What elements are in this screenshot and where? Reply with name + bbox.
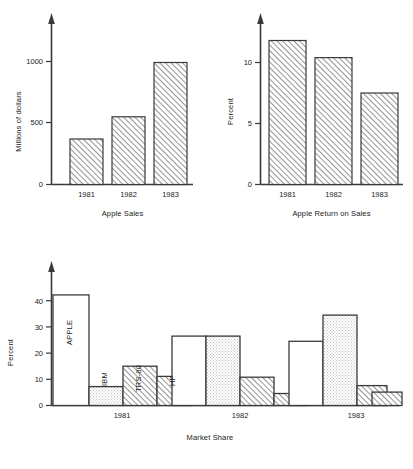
bar-group-1981 xyxy=(53,295,191,406)
x-tick-label-1983: 1983 xyxy=(337,411,375,420)
bars xyxy=(269,41,398,185)
bar-1982-ibm xyxy=(206,336,240,405)
bar-group-1983 xyxy=(289,315,402,405)
bar-1982 xyxy=(112,117,145,185)
x-axis-title: Apple Return on Sales xyxy=(260,209,403,218)
x-axis-title: Apple Sales xyxy=(52,209,193,218)
y-tick-label-10: 10 xyxy=(223,58,252,67)
x-tick-label-1982: 1982 xyxy=(110,190,147,199)
bar-1982-trs80 xyxy=(240,377,274,405)
y-tick-label-0: 0 xyxy=(14,180,43,189)
bars xyxy=(70,63,187,185)
bar-1981-apple xyxy=(53,295,89,406)
x-tick-label-1983: 1983 xyxy=(361,190,398,199)
bar-1982-apple xyxy=(172,336,206,405)
bar-1983 xyxy=(154,63,187,185)
bar-1983-hp xyxy=(372,392,402,405)
chart-panel-market-share: 0 10 20 30 40 Percent APPLE IBM TRS-80 H… xyxy=(0,240,413,469)
bar-1983 xyxy=(361,93,398,185)
y-axis xyxy=(257,13,264,185)
three-panel-bar-chart-figure: 0 500 1000 Millions of dollars 1981 1982… xyxy=(0,0,413,469)
bar-1981 xyxy=(269,41,306,185)
bar-1981-ibm xyxy=(89,387,123,406)
y-tick-label-20: 20 xyxy=(16,349,43,358)
bar-1982 xyxy=(315,58,352,185)
y-tick-label-40: 40 xyxy=(16,297,43,306)
bar-1983-ibm xyxy=(323,315,357,405)
bar-1983-apple xyxy=(289,341,323,405)
y-axis-title: Millions of dollars xyxy=(14,77,23,167)
y-tick-label-0: 0 xyxy=(16,401,43,410)
chart-panel-apple-sales: 0 500 1000 Millions of dollars 1981 1982… xyxy=(0,0,207,232)
x-tick-label-1982: 1982 xyxy=(221,411,259,420)
series-label-trs80: TRS-80 xyxy=(134,365,143,392)
y-tick-label-0: 0 xyxy=(223,180,252,189)
y-tick-label-10: 10 xyxy=(16,375,43,384)
bar-group-1982 xyxy=(172,336,308,405)
bar-1981 xyxy=(70,139,103,185)
y-tick-label-1000: 1000 xyxy=(9,57,43,66)
x-tick-label-1981: 1981 xyxy=(68,190,105,199)
y-tick-label-30: 30 xyxy=(16,323,43,332)
series-label-apple: APPLE xyxy=(65,320,74,345)
y-axis xyxy=(48,13,55,185)
y-axis-ticks xyxy=(46,301,52,406)
x-tick-label-1982: 1982 xyxy=(315,190,352,199)
y-axis-ticks xyxy=(46,62,52,185)
y-axis-ticks xyxy=(255,63,261,185)
chart-panel-apple-return-on-sales: 0 5 10 Percent 1981 1982 1983 Apple Retu… xyxy=(207,0,413,232)
y-axis-title: Percent xyxy=(226,82,235,142)
series-label-ibm: IBM xyxy=(100,372,109,386)
series-label-hp: HP xyxy=(168,375,177,386)
x-tick-label-1983: 1983 xyxy=(152,190,189,199)
x-tick-label-1981: 1981 xyxy=(103,411,141,420)
x-axis-title: Market Share xyxy=(150,433,270,442)
x-tick-label-1981: 1981 xyxy=(269,190,306,199)
y-axis-title: Percent xyxy=(6,323,15,383)
